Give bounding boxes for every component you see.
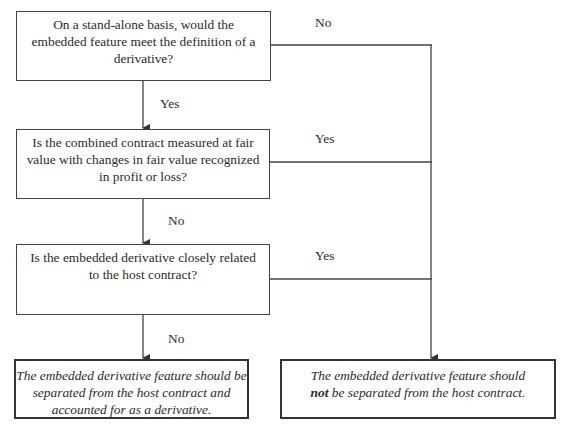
label-q2-yes: Yes [315, 131, 334, 147]
question-text-line: to the host contract? [17, 266, 269, 283]
outcome-text-line: accounted for as a derivative. [16, 401, 247, 418]
question-text-line: in profit or loss? [17, 168, 269, 185]
question-text-line: Is the combined contract measured at fai… [17, 134, 269, 151]
outcome-text-line: The embedded derivative feature should [282, 367, 554, 384]
question-text-line: Is the embedded derivative closely relat… [17, 249, 269, 266]
question-box-fair-value: Is the combined contract measured at fai… [16, 129, 270, 199]
question-box-derivative-definition: On a stand-alone basis, would the embedd… [16, 11, 271, 81]
question-text-line: embedded feature meet the definition of … [17, 33, 270, 50]
outcome-text-line: separated from the host contract and [16, 384, 247, 401]
outcome-box-not-separate: The embedded derivative feature should n… [280, 359, 556, 419]
emphasis-not: not [311, 385, 329, 400]
question-box-closely-related: Is the embedded derivative closely relat… [16, 244, 270, 315]
outcome-text-line: not be separated from the host contract. [282, 384, 554, 401]
label-q3-no: No [168, 331, 184, 347]
label-q1-no: No [315, 15, 331, 31]
question-text-line: value with changes in fair value recogni… [17, 151, 269, 168]
question-text-line: On a stand-alone basis, would the [17, 16, 270, 33]
label-q1-yes: Yes [160, 96, 179, 112]
outcome-text-line: The embedded derivative feature should b… [16, 367, 247, 384]
outcome-box-separate: The embedded derivative feature should b… [14, 359, 249, 419]
question-text-line: derivative? [17, 50, 270, 67]
label-q3-yes: Yes [315, 248, 334, 264]
label-q2-no: No [168, 213, 184, 229]
